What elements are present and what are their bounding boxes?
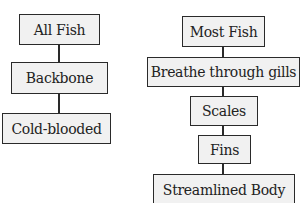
connector-scales-fins bbox=[222, 126, 224, 135]
node-scales: Scales bbox=[190, 96, 258, 126]
node-cold-blooded: Cold-blooded bbox=[2, 113, 111, 144]
connector-allfish-backbone bbox=[58, 45, 60, 62]
connector-backbone-coldblooded bbox=[58, 94, 60, 113]
connector-mostfish-gills bbox=[222, 47, 224, 57]
node-all-fish: All Fish bbox=[19, 14, 100, 45]
node-most-fish: Most Fish bbox=[182, 16, 265, 47]
node-breathe-through-gills: Breathe through gills bbox=[147, 57, 300, 87]
connector-fins-streamlined bbox=[222, 164, 224, 174]
node-backbone: Backbone bbox=[11, 62, 108, 94]
node-fins: Fins bbox=[198, 135, 251, 164]
node-streamlined-body: Streamlined Body bbox=[153, 174, 295, 203]
connector-gills-scales bbox=[222, 87, 224, 96]
